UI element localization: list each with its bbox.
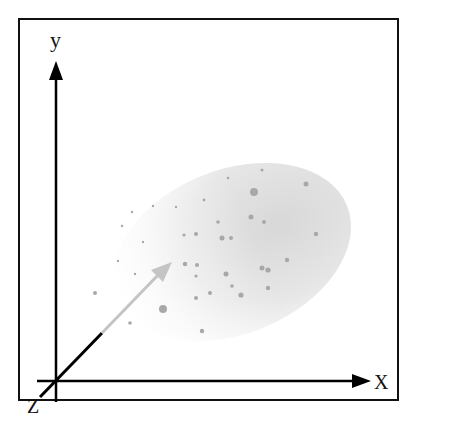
coordinate-diagram: y X Z bbox=[0, 0, 451, 448]
y-axis-label: y bbox=[50, 27, 61, 52]
diagram-canvas: y X Z bbox=[0, 0, 451, 448]
z-axis-label: Z bbox=[27, 395, 39, 417]
x-axis-label: X bbox=[374, 371, 389, 393]
